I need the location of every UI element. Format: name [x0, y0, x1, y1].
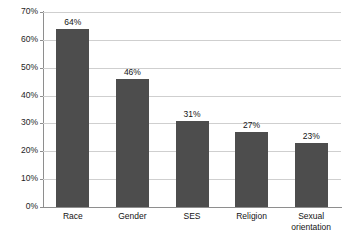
y-axis-tick-label: 10% — [21, 174, 38, 183]
gridline — [43, 12, 341, 13]
y-axis-tick-mark — [40, 179, 43, 180]
bar[interactable] — [176, 121, 209, 207]
y-axis-tick-mark — [40, 123, 43, 124]
x-axis-category-label: Religion — [218, 211, 286, 222]
bar-value-label: 64% — [43, 17, 103, 27]
y-axis-tick-label: 30% — [21, 118, 38, 127]
x-axis-category-label: Sexual orientation — [277, 211, 345, 232]
cropped-header-text — [46, 0, 226, 4]
y-axis-tick-mark — [40, 207, 43, 208]
bar[interactable] — [295, 143, 328, 207]
x-axis-category-label: Gender — [98, 211, 166, 222]
x-axis-category-label: SES — [158, 211, 226, 222]
gridline — [43, 207, 341, 208]
y-axis-tick-mark — [40, 151, 43, 152]
bar[interactable] — [116, 79, 149, 207]
x-axis-category-label: Race — [39, 211, 107, 222]
bar-chart: 0%10%20%30%40%50%60%70%64%Race46%Gender3… — [0, 0, 349, 239]
y-axis-tick-label: 70% — [21, 7, 38, 16]
y-axis-tick-label: 20% — [21, 146, 38, 155]
bar-value-label: 27% — [222, 120, 282, 130]
bar-value-label: 46% — [102, 67, 162, 77]
y-axis-tick-mark — [40, 68, 43, 69]
y-axis-tick-label: 40% — [21, 91, 38, 100]
bar-value-label: 31% — [162, 109, 222, 119]
y-axis-tick-label: 50% — [21, 63, 38, 72]
y-axis-tick-mark — [40, 40, 43, 41]
bar[interactable] — [56, 29, 89, 207]
bar-value-label: 23% — [281, 131, 341, 141]
bar[interactable] — [235, 132, 268, 207]
y-axis-tick-label: 0% — [26, 202, 38, 211]
y-axis-tick-mark — [40, 12, 43, 13]
y-axis-tick-mark — [40, 96, 43, 97]
y-axis-tick-label: 60% — [21, 35, 38, 44]
